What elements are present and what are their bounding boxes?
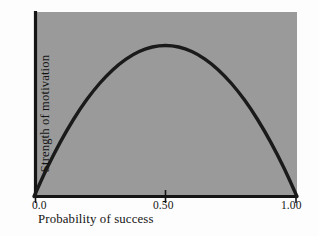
y-axis-title: Strength of motivation <box>38 29 53 199</box>
plot-area-background <box>34 12 297 197</box>
figure-container: 0.0 0.50 1.00 Probability of success Str… <box>0 0 319 236</box>
x-axis-title: Probability of success <box>38 212 154 227</box>
x-tick-label-0: 0.0 <box>32 199 47 211</box>
x-tick-label-1: 0.50 <box>153 199 174 211</box>
x-tick-label-2: 1.00 <box>281 199 302 211</box>
